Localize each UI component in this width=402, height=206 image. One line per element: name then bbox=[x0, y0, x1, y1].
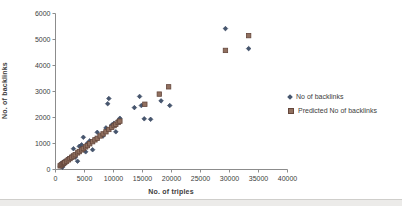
data-point-actual bbox=[246, 46, 251, 51]
x-tick-label: 0 bbox=[54, 175, 58, 182]
legend-label-actual: No of backlinks bbox=[296, 93, 343, 100]
data-point-actual bbox=[137, 94, 142, 99]
data-point-predicted bbox=[143, 102, 147, 106]
legend-item-predicted: Predicted No of backlinks bbox=[288, 107, 377, 114]
data-point-actual bbox=[114, 130, 119, 135]
chart-legend: No of backlinks Predicted No of backlink… bbox=[288, 93, 377, 114]
data-point-actual bbox=[75, 159, 80, 164]
diamond-marker-icon bbox=[287, 94, 293, 100]
x-axis-title: No. of triples bbox=[111, 188, 231, 195]
legend-label-predicted: Predicted No of backlinks bbox=[298, 107, 377, 114]
data-point-actual bbox=[105, 101, 110, 106]
x-tick-label: 5000 bbox=[77, 175, 93, 182]
data-point-actual bbox=[167, 103, 172, 108]
data-point-actual bbox=[90, 147, 95, 152]
y-tick-label: 0 bbox=[47, 166, 51, 173]
data-point-predicted bbox=[157, 92, 161, 96]
x-tick-label: 35000 bbox=[249, 175, 269, 182]
x-tick-label: 40000 bbox=[278, 175, 298, 182]
data-point-actual bbox=[132, 105, 137, 110]
data-point-predicted bbox=[223, 48, 227, 52]
y-axis-title: No. of backlinks bbox=[1, 51, 8, 131]
y-tick-label: 4000 bbox=[35, 62, 51, 69]
y-tick-label: 5000 bbox=[35, 36, 51, 43]
x-tick-label: 20000 bbox=[162, 175, 182, 182]
data-point-predicted bbox=[246, 33, 250, 37]
x-tick-label: 15000 bbox=[133, 175, 153, 182]
legend-item-actual: No of backlinks bbox=[288, 93, 377, 100]
data-point-actual bbox=[107, 96, 112, 101]
y-tick-label: 2000 bbox=[35, 114, 51, 121]
data-point-actual bbox=[148, 117, 153, 122]
window-bottom-edge bbox=[0, 199, 402, 206]
data-point-predicted bbox=[166, 85, 170, 89]
data-point-predicted bbox=[118, 119, 122, 123]
data-point-actual bbox=[142, 117, 147, 122]
y-tick-label: 6000 bbox=[35, 10, 51, 17]
data-point-actual bbox=[223, 26, 228, 31]
x-tick-label: 30000 bbox=[220, 175, 240, 182]
square-marker-icon bbox=[288, 108, 294, 114]
x-tick-label: 25000 bbox=[191, 175, 211, 182]
data-point-actual bbox=[159, 99, 164, 104]
chart-screenshot: 0100020003000400050006000050001000015000… bbox=[0, 0, 402, 206]
x-tick-label: 10000 bbox=[104, 175, 124, 182]
y-tick-label: 3000 bbox=[35, 88, 51, 95]
y-tick-label: 1000 bbox=[35, 140, 51, 147]
data-point-actual bbox=[81, 135, 86, 140]
